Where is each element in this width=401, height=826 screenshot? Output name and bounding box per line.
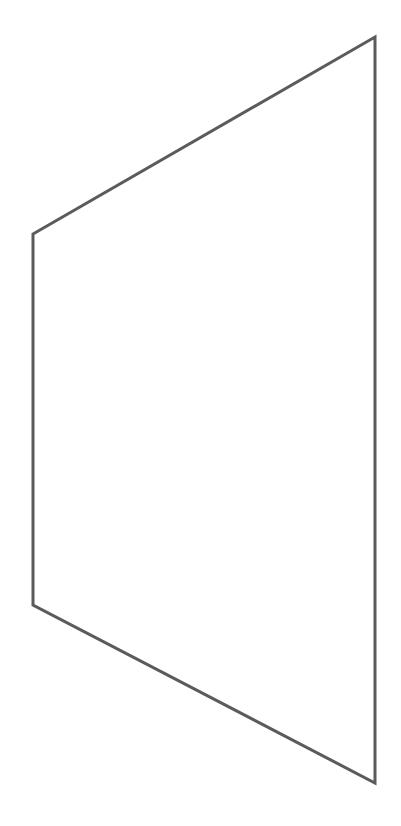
quadrilateral-shape [33,37,375,783]
drawing-canvas [0,0,401,826]
quadrilateral-figure [0,0,401,826]
